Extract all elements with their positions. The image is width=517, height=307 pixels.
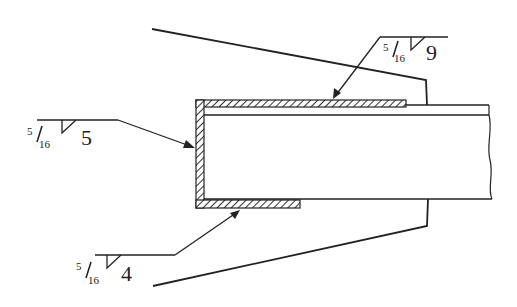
weld-top-length: 9 xyxy=(426,40,437,65)
weld-bottom-size-num: 5 xyxy=(76,260,82,272)
weld-bottom-length: 4 xyxy=(121,261,132,286)
channel-web xyxy=(196,100,204,208)
weld-end-size-num: 5 xyxy=(27,125,33,137)
weld-detail-drawing: 5 16 9 5 16 5 5 16 4 xyxy=(0,0,517,307)
weld-bottom-size-den: 16 xyxy=(88,274,100,286)
top-flange xyxy=(196,100,406,107)
gusset-outline xyxy=(152,29,428,286)
weld-end-size-den: 16 xyxy=(39,138,51,150)
weld-callout-bottom: 5 16 4 xyxy=(76,210,240,286)
weld-callout-top: 5 16 9 xyxy=(333,37,448,99)
plate xyxy=(204,105,492,199)
weld-top-size-den: 16 xyxy=(394,52,406,64)
weld-end-length: 5 xyxy=(81,125,92,150)
weld-callout-end: 5 16 5 xyxy=(27,120,195,150)
arrow-head-icon xyxy=(183,140,195,148)
weld-top-size-num: 5 xyxy=(383,41,389,53)
arrow-head-icon xyxy=(230,210,240,219)
bottom-flange xyxy=(196,200,300,208)
channel-section xyxy=(196,100,406,208)
